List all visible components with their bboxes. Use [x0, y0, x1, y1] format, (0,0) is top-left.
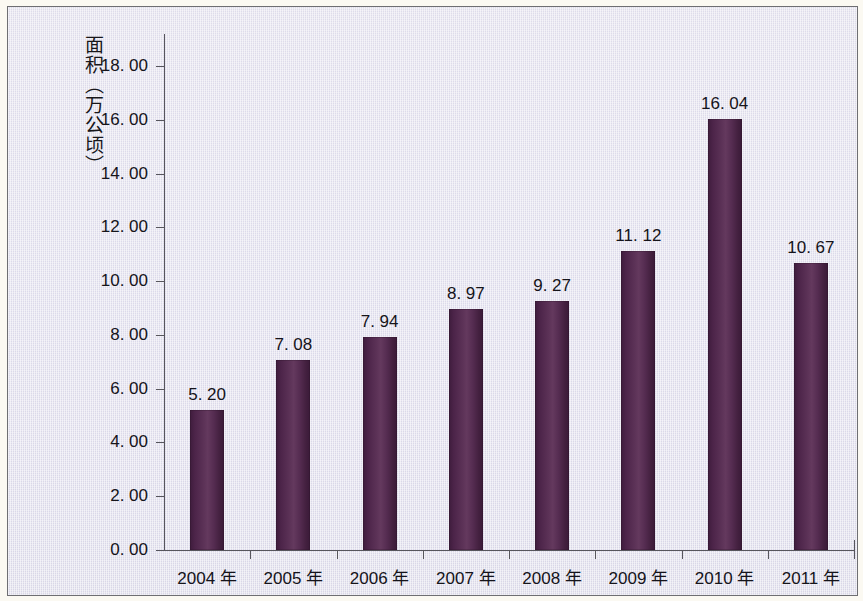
x-axis-tick: [595, 550, 596, 559]
bar-value-label: 7. 94: [337, 312, 423, 332]
y-axis-tick-label: 12. 00: [76, 217, 148, 237]
x-axis-category-label: 2009 年: [595, 564, 681, 589]
bar-value-label: 7. 08: [250, 335, 336, 355]
x-axis-category-label: 2011 年: [768, 564, 854, 589]
y-axis-tick: [156, 496, 165, 497]
y-axis-tick: [156, 550, 165, 551]
y-axis-tick-label: 10. 00: [76, 271, 148, 291]
bar-value-label: 16. 04: [682, 94, 768, 114]
bar: [190, 410, 224, 550]
y-axis-tick-label: 4. 00: [76, 432, 148, 452]
bar: [363, 337, 397, 550]
bar-value-label: 5. 20: [164, 385, 250, 405]
y-axis-tick-label: 2. 00: [76, 486, 148, 506]
bar: [621, 251, 655, 550]
x-axis-category-label: 2010 年: [682, 564, 768, 589]
y-axis-tick-label: 8. 00: [76, 325, 148, 345]
x-axis-tick: [509, 550, 510, 559]
y-axis-tick: [156, 281, 165, 282]
y-axis-tick-label: 16. 00: [76, 110, 148, 130]
x-axis-category-label: 2005 年: [250, 564, 336, 589]
bar: [449, 309, 483, 550]
y-axis-tick: [156, 442, 165, 443]
x-axis-category-label: 2007 年: [423, 564, 509, 589]
x-axis-category-label: 2004 年: [164, 564, 250, 589]
y-axis-tick: [156, 174, 165, 175]
bar: [535, 301, 569, 550]
x-axis-tick: [682, 550, 683, 559]
y-axis-tick: [156, 227, 165, 228]
y-axis-tick: [156, 335, 165, 336]
x-axis-tick: [768, 550, 769, 559]
y-axis-tick-label: 0. 00: [76, 540, 148, 560]
bar: [708, 119, 742, 550]
bar-value-label: 11. 12: [595, 226, 681, 246]
x-axis-tick: [250, 550, 251, 559]
bar-value-label: 8. 97: [423, 284, 509, 304]
y-axis-line: [164, 34, 165, 551]
x-axis-tick: [337, 550, 338, 559]
y-axis-tick-label: 14. 00: [76, 164, 148, 184]
bar-value-label: 10. 67: [768, 238, 854, 258]
x-axis-category-label: 2008 年: [509, 564, 595, 589]
x-axis-category-label: 2006 年: [337, 564, 423, 589]
plot-area: 0. 002. 004. 006. 008. 0010. 0012. 0014.…: [8, 7, 858, 596]
x-axis-tick: [854, 550, 855, 559]
y-axis-tick-label: 6. 00: [76, 379, 148, 399]
x-axis-tick: [423, 550, 424, 559]
y-axis-tick: [156, 120, 165, 121]
bar: [276, 360, 310, 550]
bar-value-label: 9. 27: [509, 276, 595, 296]
bar-chart-figure: 面积（万公顷） 0. 002. 004. 006. 008. 0010. 001…: [7, 6, 858, 596]
y-axis-tick-label: 18. 00: [76, 56, 148, 76]
y-axis-tick: [156, 66, 165, 67]
bar: [794, 263, 828, 550]
scan-page: 面积（万公顷） 0. 002. 004. 006. 008. 0010. 001…: [0, 0, 863, 601]
